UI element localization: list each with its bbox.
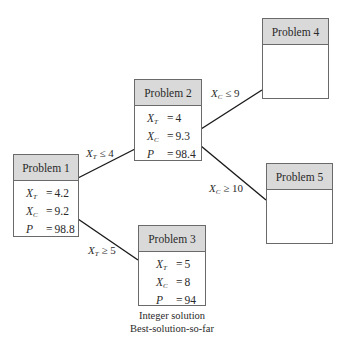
node-title: Problem 3 (139, 226, 205, 252)
var-row: P=98.4 (147, 147, 201, 165)
var-row: XC=9.2 (26, 204, 78, 222)
node-title: Problem 4 (263, 19, 328, 45)
var-row: XT=4 (147, 111, 201, 129)
node-problem-2: Problem 2 XT=4 XC=9.3 P=98.4 (134, 79, 202, 161)
var-row: XT=4.2 (26, 186, 78, 204)
var-row: XC=9.3 (147, 129, 201, 147)
node-problem-5: Problem 5 (266, 163, 333, 244)
node-title: Problem 2 (135, 80, 201, 106)
caption-line: Best-solution-so-far (120, 322, 224, 335)
caption-line: Integer solution (120, 309, 224, 322)
node-title: Problem 5 (267, 164, 332, 190)
edge-label-p2-p4: XC ≤ 9 (211, 87, 239, 101)
node-title: Problem 1 (14, 155, 78, 181)
problem-3-caption: Integer solution Best-solution-so-far (120, 309, 224, 335)
edge-label-p2-p5: XC ≥ 10 (209, 182, 243, 196)
node-problem-3: Problem 3 XT=5 XC=8 P=94 (138, 225, 206, 306)
node-problem-1: Problem 1 XT=4.2 XC=9.2 P=98.8 (13, 154, 79, 237)
var-row: XT=5 (156, 257, 205, 275)
var-row: P=98.8 (26, 222, 78, 240)
var-row: XC=8 (156, 275, 205, 293)
node-problem-4: Problem 4 (262, 18, 329, 99)
edge-label-p1-p3: XT ≥ 5 (88, 244, 116, 258)
edge-label-p1-p2: XT ≤ 4 (86, 147, 114, 161)
